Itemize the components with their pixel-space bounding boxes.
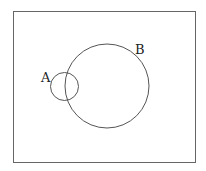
set-a-label: A (40, 70, 51, 85)
universe-rectangle (14, 12, 196, 163)
set-a-circle (51, 73, 79, 101)
set-b-label: B (135, 42, 145, 57)
venn-diagram: A B (0, 0, 206, 171)
